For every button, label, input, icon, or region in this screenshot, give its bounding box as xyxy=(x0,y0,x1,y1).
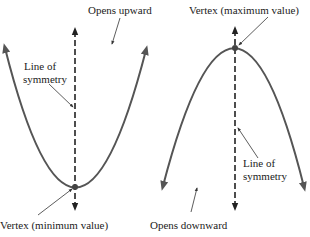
downward-parabola-group xyxy=(163,17,304,212)
parabola-diagram: Opens upward Line of symmetry Vertex (mi… xyxy=(0,0,310,237)
minimum-vertex-label: Vertex (minimum value) xyxy=(0,219,108,231)
left-symmetry-label-line2: symmetry xyxy=(23,73,67,85)
minimum-vertex-pointer xyxy=(38,189,72,215)
maximum-vertex-pointer xyxy=(239,17,268,45)
downward-parabola-curve xyxy=(163,48,304,187)
right-symmetry-label-line2: symmetry xyxy=(243,170,287,182)
opens-downward-label: Opens downward xyxy=(150,219,227,231)
upward-parabola-group xyxy=(5,18,146,215)
opens-upward-label: Opens upward xyxy=(88,4,152,16)
maximum-vertex-label: Vertex (maximum value) xyxy=(189,4,299,16)
minimum-vertex-point xyxy=(72,184,78,190)
maximum-vertex-point xyxy=(232,45,238,51)
left-symmetry-pointer xyxy=(49,84,73,107)
right-symmetry-pointer xyxy=(238,128,258,158)
opens-upward-pointer xyxy=(112,18,120,44)
diagram-graphics xyxy=(0,0,310,237)
opens-downward-pointer xyxy=(191,188,197,212)
left-symmetry-label-line1: Line of xyxy=(24,60,56,72)
right-symmetry-label-line1: Line of xyxy=(243,157,275,169)
